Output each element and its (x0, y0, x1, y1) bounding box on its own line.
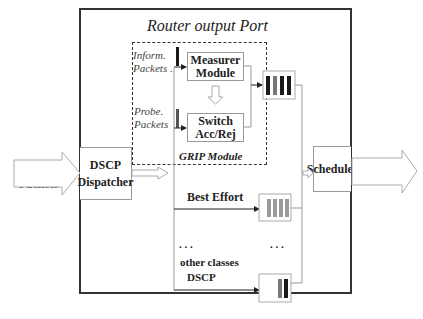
outgoing-arrow-icon (352, 150, 417, 193)
other-classes-queue-bar (278, 279, 282, 298)
best-effort-queue-bar (273, 199, 277, 217)
grip-queue-bar (280, 76, 284, 95)
best-effort-queue-bar (279, 199, 283, 217)
measurer-output-line (244, 66, 251, 127)
best-effort-queue-bar (285, 199, 289, 217)
grip-queue-output-line (291, 85, 302, 283)
inform-queue-bar (176, 47, 179, 66)
dispatcher-output-arrow-icon (132, 167, 168, 179)
measurer-to-switch-arrow-icon (208, 86, 223, 104)
grip-queue-bar (266, 76, 270, 95)
grip-queue-bar (287, 76, 291, 95)
probe-queue-bar (176, 109, 179, 128)
grip-queue-bar (273, 76, 277, 95)
best-effort-queue-bar (267, 199, 271, 217)
incoming-arrow-icon (14, 152, 80, 195)
diagram-graphics (0, 0, 423, 319)
bus-to-scheduler-arrow-icon (303, 168, 313, 178)
other-classes-queue-bar (284, 279, 288, 298)
